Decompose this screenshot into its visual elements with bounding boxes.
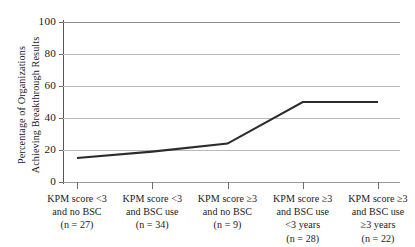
x-tick-mark-2 [228, 182, 229, 189]
y-axis-title-line-2: Achieving Breakthrough Results [29, 37, 44, 174]
line-chart-figure: Percentage of Organizations Achieving Br… [0, 0, 415, 247]
y-axis-title: Percentage of Organizations Achieving Br… [12, 15, 46, 195]
x-tick-mark-3 [303, 182, 304, 189]
x-category-4-line-1: and BSC use [331, 205, 415, 218]
y-axis-title-stack: Percentage of Organizations Achieving Br… [15, 37, 44, 174]
x-axis-category-labels: KPM score <3and no BSC(n = 27)KPM score … [63, 192, 400, 242]
series-line-breakthrough-results [77, 102, 378, 158]
y-tick-label-40: 40 [44, 112, 56, 123]
y-tick-label-100: 100 [39, 16, 56, 27]
x-tick-mark-4 [378, 182, 379, 189]
data-series-svg [63, 22, 400, 183]
x-category-4-line-0: KPM score ≥3 [331, 192, 415, 205]
plot-area: 020406080100 [63, 22, 400, 182]
x-tick-mark-1 [152, 182, 153, 189]
x-category-4-line-3: (n = 22) [331, 232, 415, 245]
y-tick-label-60: 60 [44, 80, 56, 91]
y-tick-label-0: 0 [50, 176, 56, 187]
x-category-label-4: KPM score ≥3and BSC use≥3 years(n = 22) [331, 192, 415, 245]
y-tick-label-80: 80 [44, 48, 56, 59]
x-tick-mark-0 [77, 182, 78, 189]
y-axis-title-line-1: Percentage of Organizations [15, 46, 30, 164]
x-category-4-line-2: ≥3 years [331, 218, 415, 231]
y-tick-label-20: 20 [44, 144, 56, 155]
